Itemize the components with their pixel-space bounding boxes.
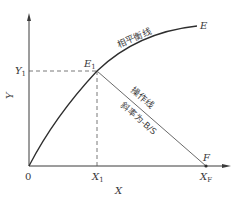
- origin-label: 0: [25, 171, 31, 182]
- point-e-label: E: [199, 20, 208, 31]
- x-axis-label: X: [114, 185, 123, 196]
- y-axis-arrow-icon: [27, 13, 31, 21]
- y-axis-label: Y: [4, 91, 15, 99]
- x1-label: X1: [91, 171, 104, 184]
- y-axis: [27, 13, 31, 166]
- point-e1-label: E1: [83, 58, 96, 71]
- point-f-marker: [204, 164, 207, 167]
- operating-line: [97, 71, 206, 166]
- xf-label: XF: [199, 171, 212, 184]
- x-axis-arrow-icon: [222, 164, 231, 168]
- equilibrium-line-label: 相平衡线: [115, 25, 152, 50]
- equilibrium-diagram: 0 X Y Y1 X1 XF E1 E F 相平衡线 操作线 斜率为-B/S: [0, 0, 247, 199]
- equilibrium-curve: [29, 26, 197, 166]
- y1-label: Y1: [15, 65, 26, 78]
- x-axis: [29, 164, 231, 168]
- point-f-label: F: [202, 152, 211, 163]
